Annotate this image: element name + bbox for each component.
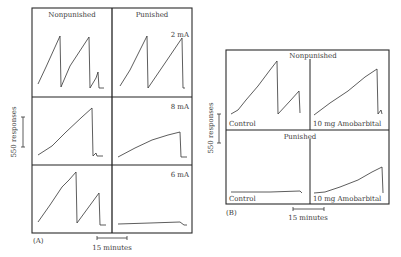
- panel-a-row-label-2ma: 2 mA: [171, 31, 190, 39]
- panel-a-header-nonpunished: Nonpunished: [48, 11, 96, 19]
- trace-punished-2-ma: [120, 36, 185, 88]
- panel-b-y-scale-label: 550 responses: [207, 102, 215, 154]
- panel-b-header-punished: Punished: [284, 133, 317, 141]
- panel-a-x-scale-label: 15 minutes: [92, 244, 132, 252]
- panel-b-label-amobarbital-bottom: 10 mg Amobarbital: [313, 195, 382, 203]
- panel-b-x-scale-label: 15 minutes: [288, 214, 328, 222]
- trace-punished-10-mg-amobarbital: [314, 167, 383, 193]
- panel-a-header-punished: Punished: [136, 11, 169, 19]
- panel-b-label-control-bottom: Control: [229, 195, 256, 203]
- trace-nonpunished-2-ma: [38, 36, 104, 88]
- trace-punished-control: [231, 191, 302, 193]
- trace-nonpunished-10-mg-amobarbital: [314, 69, 382, 115]
- panel-b-label-amobarbital-top: 10 mg Amobarbital: [313, 120, 382, 128]
- trace-nonpunished-control: [231, 61, 300, 114]
- panel-a: Nonpunished Punished 2 mA 8 mA 6 mA 550 …: [10, 8, 192, 252]
- panel-b-label-control-top: Control: [229, 120, 256, 128]
- panel-a-row-label-6ma: 6 mA: [171, 171, 190, 179]
- trace-punished-8-ma: [118, 132, 187, 157]
- trace-punished-6-ma: [118, 222, 187, 225]
- panel-a-row-label-8ma: 8 mA: [171, 103, 190, 111]
- trace-nonpunished-6-ma: [38, 172, 106, 225]
- panel-a-tag: (A): [33, 237, 44, 245]
- panel-b: Nonpunished Punished Control 10 mg Amoba…: [207, 50, 389, 222]
- figure-canvas: Nonpunished Punished 2 mA 8 mA 6 mA 550 …: [0, 0, 401, 257]
- panel-b-header-nonpunished: Nonpunished: [289, 52, 337, 60]
- panel-b-tag: (B): [226, 209, 237, 217]
- panel-a-y-scale-label: 550 responses: [10, 106, 18, 158]
- trace-nonpunished-8-ma: [38, 108, 103, 156]
